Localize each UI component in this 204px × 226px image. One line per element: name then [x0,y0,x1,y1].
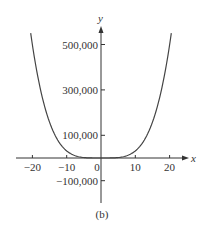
x-tick-label: −10 [58,161,76,173]
y-tick-label: −100,000 [56,175,98,187]
figure-caption: (b) [96,208,109,221]
y-axis-label: y [97,12,103,24]
x-tick-label: 20 [164,161,176,173]
y-tick-label: 100,000 [62,129,98,141]
x-axis-label: x [190,152,196,164]
x-tick-label: 10 [130,161,142,173]
y-axis-arrow-icon [99,26,104,33]
chart-canvas: −20−1001020 500,000300,000100,000−100,00… [0,0,204,226]
y-tick-label: 500,000 [62,39,98,51]
x-tick-label: 0 [94,161,100,173]
y-tick-label: 300,000 [62,84,98,96]
x-tick-label: −20 [24,161,42,173]
x-axis-arrow-icon [182,156,189,161]
